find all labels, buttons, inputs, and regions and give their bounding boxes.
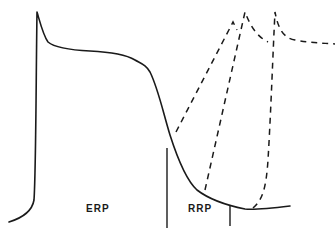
premature-response-3 (253, 12, 335, 208)
rrp-label: RRP (188, 203, 212, 214)
action-potential-diagram (0, 0, 335, 237)
action-potential-trace (9, 12, 290, 222)
premature-response-2 (205, 12, 268, 190)
erp-label: ERP (86, 203, 110, 214)
premature-response-1 (176, 22, 237, 132)
